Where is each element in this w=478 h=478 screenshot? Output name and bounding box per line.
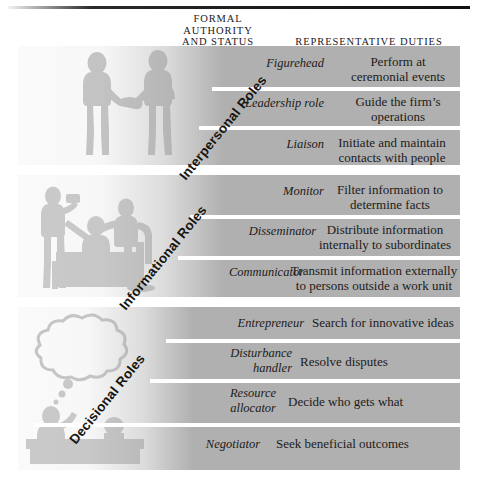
role-duty: Initiate and maintain contacts with peop… <box>318 135 466 165</box>
role-name: Liaison <box>212 137 324 151</box>
managerial-roles-diagram: FORMAL AUTHORITY AND STATUS REPRESENTATI… <box>0 0 478 478</box>
role-duty: Resolve disputes <box>300 354 460 369</box>
role-duty: Guide the firm’s operations <box>330 94 466 124</box>
role-duty: Seek beneficial outcomes <box>276 436 456 451</box>
role-duty: Filter information to determine facts <box>314 182 466 212</box>
column-heading-formal-authority: FORMAL AUTHORITY AND STATUS <box>166 13 270 48</box>
row-separator <box>150 379 460 383</box>
role-name: Resource allocator <box>150 386 276 416</box>
role-duty: Transmit information externally to perso… <box>282 263 466 293</box>
role-duty: Search for innovative ideas <box>312 315 472 330</box>
role-name: Entrepreneur <box>178 316 304 330</box>
role-name: Leadership role <box>200 96 324 110</box>
row-separator <box>34 423 460 427</box>
row-separator <box>178 256 460 260</box>
role-duty: Decide who gets what <box>288 394 458 409</box>
role-name: Monitor <box>212 184 324 198</box>
role-name: Disturbance handler <box>166 346 292 376</box>
role-name: Disseminator <box>190 224 316 238</box>
role-duty: Perform at ceremonial events <box>330 54 466 84</box>
row-separator <box>190 215 460 219</box>
row-separator <box>166 339 460 343</box>
role-duty: Distribute information internally to sub… <box>304 222 466 252</box>
top-rule-divider <box>8 6 470 9</box>
role-name: Figurehead <box>212 56 324 70</box>
row-separator <box>199 126 460 130</box>
role-name: Negotiator <box>134 437 260 451</box>
